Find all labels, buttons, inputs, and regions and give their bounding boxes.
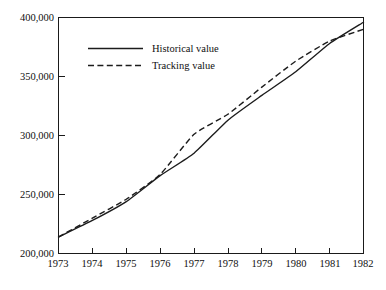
legend-label-tracking-value: Tracking value <box>152 60 215 71</box>
y-axis-label-350000: 350,000 <box>20 71 54 82</box>
x-axis-label-1982: 1982 <box>353 258 374 269</box>
y-axis-label-250000: 250,000 <box>20 189 54 200</box>
chart-container: 400,000 350,000 300,000 250,000 200,000 … <box>0 0 386 290</box>
x-axis-label-1977: 1977 <box>184 258 205 269</box>
x-axis-label-1975: 1975 <box>116 258 137 269</box>
y-axis-label-300000: 300,000 <box>20 130 54 141</box>
x-axis-label-1981: 1981 <box>320 258 341 269</box>
x-axis-label-1973: 1973 <box>48 258 69 269</box>
x-axis-label-1980: 1980 <box>286 258 307 269</box>
legend-label-historical-value: Historical value <box>152 43 219 54</box>
x-axis-label-1976: 1976 <box>150 258 171 269</box>
line-chart: 400,000 350,000 300,000 250,000 200,000 … <box>0 0 386 290</box>
x-axis-label-1979: 1979 <box>252 258 273 269</box>
x-axis-label-1978: 1978 <box>218 258 239 269</box>
y-axis-label-400000: 400,000 <box>20 12 54 23</box>
x-axis-label-1974: 1974 <box>82 258 104 269</box>
